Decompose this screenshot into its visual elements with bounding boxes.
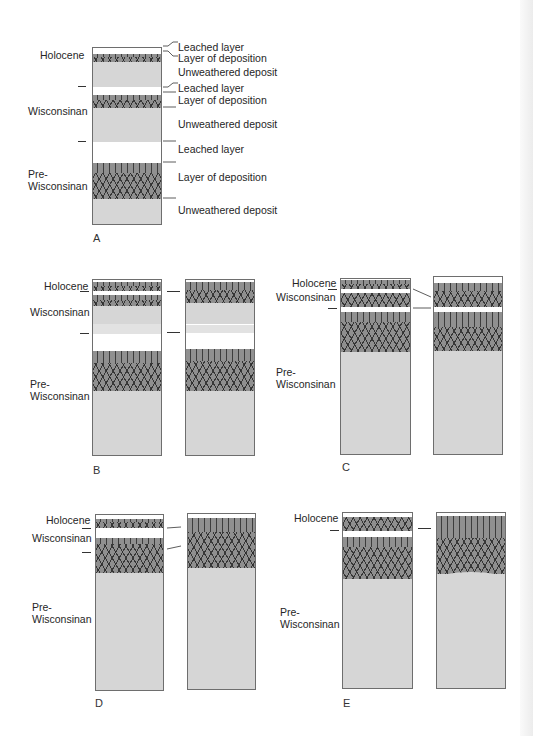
layer-label: Layer of deposition bbox=[178, 171, 267, 183]
boundary-tick bbox=[78, 141, 86, 142]
correlation-line bbox=[167, 291, 180, 292]
correlation-lines bbox=[413, 285, 435, 315]
label-holocene: Holocene bbox=[46, 514, 90, 526]
label-pre-wisconsinan: Wisconsinan bbox=[28, 180, 88, 192]
correlation-lines bbox=[167, 524, 187, 554]
label-holocene: Holocene bbox=[40, 49, 84, 61]
layer-label: Leached layer bbox=[178, 143, 244, 155]
soil-column-a bbox=[92, 47, 162, 225]
label-pre: Pre- bbox=[28, 168, 48, 180]
boundary-tick bbox=[330, 530, 339, 531]
boundary-tick bbox=[80, 333, 89, 334]
layer-label: Leached layer bbox=[178, 82, 244, 94]
layer-label: Unweathered deposit bbox=[178, 66, 277, 78]
boundary-tick bbox=[82, 528, 91, 529]
label-wisconsinan: Wisconsinan bbox=[32, 532, 92, 544]
layer-label: Unweathered deposit bbox=[178, 118, 277, 130]
soil-column-c-left bbox=[340, 278, 411, 455]
correlation-line bbox=[418, 528, 431, 529]
soil-column-b-left bbox=[92, 279, 162, 456]
label-pre: Pre- bbox=[30, 378, 50, 390]
label-pre-wisconsinan: Wisconsinan bbox=[32, 613, 92, 625]
boundary-tick bbox=[328, 308, 337, 309]
boundary-tick bbox=[328, 289, 337, 290]
label-pre-wisconsinan: Wisconsinan bbox=[30, 390, 90, 402]
label-pre-wisconsinan: Wisconsinan bbox=[280, 618, 340, 630]
label-wisconsinan: Wisconsinan bbox=[276, 291, 336, 303]
boundary-tick bbox=[80, 291, 89, 292]
panel-letter-e: E bbox=[343, 697, 350, 709]
soil-column-e-left bbox=[342, 512, 413, 689]
soil-column-d-left bbox=[95, 514, 164, 691]
bracket-lines bbox=[163, 42, 179, 242]
layer-label: Layer of deposition bbox=[178, 52, 267, 64]
panel-letter-b: B bbox=[93, 464, 100, 476]
page-edge-shadow bbox=[520, 0, 533, 736]
label-pre: Pre- bbox=[280, 606, 300, 618]
label-holocene: Holocene bbox=[294, 512, 338, 524]
correlation-line bbox=[167, 332, 180, 333]
soil-column-e-right bbox=[436, 512, 506, 689]
layer-label: Layer of deposition bbox=[178, 94, 267, 106]
boundary-tick bbox=[78, 86, 86, 87]
boundary-tick bbox=[82, 552, 91, 553]
label-wisconsinan: Wisconsinan bbox=[30, 306, 90, 318]
label-wisconsinan: Wisconsinan bbox=[28, 105, 88, 117]
soil-column-d-right bbox=[187, 513, 256, 690]
label-holocene: Holocene bbox=[292, 277, 336, 289]
label-pre: Pre- bbox=[276, 366, 296, 378]
layer-label: Unweathered deposit bbox=[178, 204, 277, 216]
label-pre: Pre- bbox=[32, 601, 52, 613]
panel-letter-c: C bbox=[342, 461, 350, 473]
soil-column-c-right bbox=[433, 276, 503, 455]
panel-letter-d: D bbox=[95, 697, 103, 709]
label-pre-wisconsinan: Wisconsinan bbox=[276, 378, 336, 390]
soil-column-b-right bbox=[185, 279, 255, 456]
panel-letter-a: A bbox=[93, 232, 100, 244]
